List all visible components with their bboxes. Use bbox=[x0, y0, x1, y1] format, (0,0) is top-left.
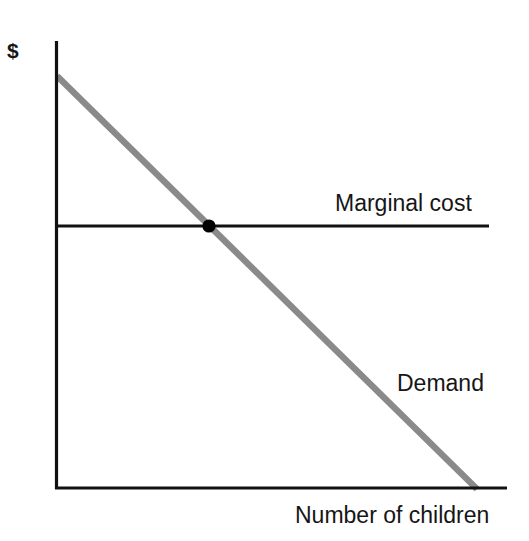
y-axis-label: $ bbox=[7, 40, 19, 61]
demand-label: Demand bbox=[397, 372, 484, 395]
demand-curve bbox=[57, 76, 477, 489]
economics-demand-marginal-cost-figure: $ Marginal cost Demand Number of childre… bbox=[0, 0, 529, 541]
x-axis-label: Number of children bbox=[295, 504, 489, 527]
equilibrium-point-marker bbox=[202, 219, 215, 232]
plot-canvas bbox=[0, 0, 529, 541]
marginal-cost-label: Marginal cost bbox=[335, 192, 472, 215]
